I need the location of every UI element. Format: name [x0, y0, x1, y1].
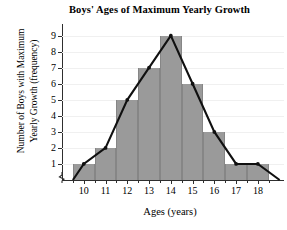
y-tick-mark — [58, 116, 62, 117]
x-tick-label-13: 13 — [139, 185, 159, 196]
data-point-14 — [169, 34, 173, 38]
data-point-10 — [82, 162, 86, 166]
y-tick-mark — [58, 52, 62, 53]
x-tick-mark — [127, 180, 128, 184]
x-tick-label-12: 12 — [117, 185, 137, 196]
x-axis-title: Ages (years) — [60, 206, 280, 217]
x-tick-label-10: 10 — [74, 185, 94, 196]
y-tick-mark — [58, 84, 62, 85]
y-tick-mark — [58, 164, 62, 165]
x-tick-mark — [171, 180, 172, 184]
x-tick-label-17: 17 — [226, 185, 246, 196]
x-tick-label-11: 11 — [96, 185, 116, 196]
y-tick-label-8: 8 — [43, 47, 56, 57]
x-tick-mark — [236, 180, 237, 184]
y-tick-mark — [58, 100, 62, 101]
y-axis-title-line-2: Yearly Growth (frequency) — [28, 11, 41, 171]
x-tick-label-16: 16 — [204, 185, 224, 196]
y-tick-mark — [58, 68, 62, 69]
y-axis-title-line-1: Number of Boys with Maximum — [15, 11, 28, 171]
y-tick-label-3: 3 — [43, 127, 56, 137]
x-tick-label-15: 15 — [183, 185, 203, 196]
x-tick-mark — [95, 180, 96, 183]
y-tick-label-2: 2 — [43, 143, 56, 153]
x-tick-label-18: 18 — [248, 185, 268, 196]
data-point-17 — [234, 162, 238, 166]
x-tick-mark — [193, 180, 194, 184]
x-tick-mark — [138, 180, 139, 183]
x-tick-mark — [203, 180, 204, 183]
x-tick-mark — [182, 180, 183, 183]
polygon-path — [73, 36, 280, 180]
y-tick-mark — [58, 132, 62, 133]
y-tick-mark — [58, 36, 62, 37]
y-tick-label-4: 4 — [43, 111, 56, 121]
plot-area — [62, 26, 284, 180]
data-point-11 — [104, 146, 108, 150]
y-tick-label-5: 5 — [43, 95, 56, 105]
x-tick-mark — [106, 180, 107, 184]
x-tick-mark — [225, 180, 226, 183]
data-point-12 — [125, 98, 129, 102]
y-tick-label-7: 7 — [43, 63, 56, 73]
y-tick-mark — [58, 148, 62, 149]
x-tick-mark — [160, 180, 161, 183]
x-tick-mark — [73, 180, 74, 183]
y-tick-label-1: 1 — [43, 159, 56, 169]
figure-root: Boys' Ages of Maximum Yearly Growth Numb… — [0, 0, 287, 230]
data-point-15 — [191, 82, 195, 86]
data-point-13 — [147, 66, 151, 70]
x-tick-mark — [214, 180, 215, 184]
data-point-16 — [212, 130, 216, 134]
x-tick-mark — [84, 180, 85, 184]
chart-title: Boys' Ages of Maximum Yearly Growth — [52, 4, 267, 16]
y-axis-title: Number of Boys with Maximum Yearly Growt… — [15, 11, 41, 171]
x-tick-mark — [269, 180, 270, 183]
x-tick-mark — [258, 180, 259, 184]
x-tick-label-14: 14 — [161, 185, 181, 196]
data-point-18 — [256, 162, 260, 166]
y-tick-label-9: 9 — [43, 31, 56, 41]
x-tick-mark — [247, 180, 248, 183]
y-tick-label-6: 6 — [43, 79, 56, 89]
x-tick-mark — [116, 180, 117, 183]
frequency-polygon-line — [62, 26, 284, 180]
x-tick-mark — [149, 180, 150, 184]
